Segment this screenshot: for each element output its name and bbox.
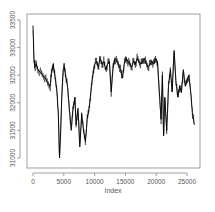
x-axis: 0500010000150002000025000	[31, 173, 196, 185]
plot-frame	[27, 14, 200, 168]
x-tick-label: 10000	[86, 178, 104, 185]
x-tick-label: 0	[31, 178, 35, 185]
x-axis-title: Index	[104, 187, 122, 194]
series-line	[33, 26, 194, 159]
x-tick-label: 5000	[57, 178, 72, 185]
y-tick-label: 32000	[9, 93, 16, 111]
x-tick-label: 25000	[178, 178, 196, 185]
y-tick-label: 31500	[9, 121, 16, 139]
x-tick-label: 15000	[116, 178, 134, 185]
chart-svg: 310003150032000325003300033500 050001000…	[0, 0, 215, 212]
y-tick-label: 32500	[9, 66, 16, 84]
y-tick-label: 33000	[9, 38, 16, 56]
y-tick-label: 33500	[9, 11, 16, 29]
y-tick-label: 31000	[9, 149, 16, 167]
x-tick-label: 20000	[147, 178, 165, 185]
y-axis: 310003150032000325003300033500	[9, 11, 20, 167]
